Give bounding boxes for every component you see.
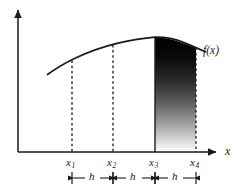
tick-label-x3: x3 (149, 157, 158, 168)
spacing-label-h-3: h (172, 171, 178, 182)
diagram-canvas (0, 0, 252, 191)
spacing-label-h-1: h (89, 171, 95, 182)
shaded-area-path (155, 37, 196, 152)
integration-diagram-figure: x1 x2 x3 x4 x f(x) h h h (0, 0, 252, 191)
x-axis-label: x (225, 145, 230, 157)
tick-label-x4: x4 (190, 157, 199, 168)
function-curve-label: f(x) (203, 45, 219, 57)
spacing-label-h-2: h (130, 171, 136, 182)
tick-label-x2: x2 (107, 157, 116, 168)
tick-label-x1: x1 (66, 157, 75, 168)
